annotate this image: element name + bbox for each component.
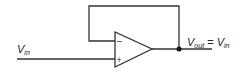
minus-input-symbol: − bbox=[117, 36, 123, 47]
output-label-rhs-sub: in bbox=[224, 42, 229, 49]
output-node-dot bbox=[177, 47, 182, 52]
output-label-equals: = bbox=[204, 36, 217, 48]
output-label-sub: out bbox=[194, 42, 204, 49]
plus-input-symbol: + bbox=[117, 55, 122, 65]
input-label: Vin bbox=[17, 43, 30, 56]
output-label-rhs-main: V bbox=[217, 36, 224, 48]
input-label-sub: in bbox=[24, 49, 29, 56]
output-label: Vout = Vin bbox=[187, 36, 229, 49]
